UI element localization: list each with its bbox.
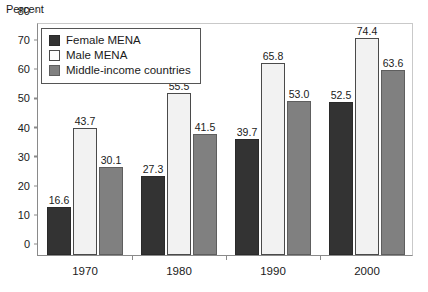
bar: 52.5 [329, 102, 353, 255]
y-axis-tick: 10 [6, 209, 38, 220]
y-axis-tick-label: 60 [6, 64, 34, 75]
bar: 41.5 [193, 134, 217, 255]
x-axis-tick-mark [226, 255, 227, 260]
bar: 74.4 [355, 38, 379, 255]
y-axis-tick: 50 [6, 93, 38, 104]
bar-value-label: 53.0 [289, 88, 309, 100]
bar-value-label: 30.1 [101, 154, 121, 166]
y-axis-tick-label: 80 [6, 6, 34, 17]
bar-chart: Percent 01020304050607080 19701980199020… [0, 0, 428, 292]
bar: 53.0 [287, 101, 311, 255]
x-axis-tick-label: 1970 [72, 264, 98, 278]
x-axis-tick-label: 1980 [166, 264, 192, 278]
y-axis-tick-mark [34, 69, 38, 70]
legend-item: Female MENA [49, 33, 191, 48]
y-axis-tick-label: 0 [6, 239, 34, 250]
legend-item: Middle-income countries [49, 63, 191, 78]
y-axis-tick: 60 [6, 64, 38, 75]
bar-value-label: 41.5 [195, 121, 215, 133]
bar-value-label: 52.5 [331, 89, 351, 101]
x-axis-tick-mark [132, 255, 133, 260]
y-axis-tick-mark [34, 156, 38, 157]
bar: 63.6 [381, 70, 405, 255]
y-axis-tick: 80 [6, 6, 38, 17]
bar-value-label: 65.8 [263, 50, 283, 62]
bar: 30.1 [99, 167, 123, 255]
bar-value-label: 63.6 [383, 57, 403, 69]
bar: 27.3 [141, 176, 165, 256]
bar-value-label: 43.7 [75, 115, 95, 127]
bar-value-label: 39.7 [237, 126, 257, 138]
legend-item-label: Male MENA [66, 49, 127, 62]
y-axis-tick-mark [34, 39, 38, 40]
y-axis-tick-mark [34, 98, 38, 99]
y-axis-tick: 30 [6, 151, 38, 162]
y-axis-tick-label: 10 [6, 209, 34, 220]
bar: 39.7 [235, 139, 259, 255]
y-axis-tick-mark [34, 127, 38, 128]
legend-item-label: Middle-income countries [66, 64, 191, 77]
y-axis-tick-label: 70 [6, 35, 34, 46]
y-axis-tick-label: 20 [6, 180, 34, 191]
bar-value-label: 16.6 [49, 194, 69, 206]
legend-item: Male MENA [49, 48, 191, 63]
x-axis-tick-label: 2000 [354, 264, 380, 278]
bar: 65.8 [261, 63, 285, 255]
y-axis-tick: 0 [6, 239, 38, 250]
bar: 16.6 [47, 207, 71, 255]
x-axis-tick-mark [320, 255, 321, 260]
bar: 55.5 [167, 93, 191, 255]
y-axis-tick-label: 40 [6, 122, 34, 133]
y-axis-tick-mark [34, 185, 38, 186]
legend-swatch-icon [49, 50, 60, 61]
x-axis-tick-label: 1990 [260, 264, 286, 278]
legend-swatch-icon [49, 65, 60, 76]
legend-item-label: Female MENA [66, 34, 141, 47]
bar: 43.7 [73, 128, 97, 255]
chart-legend: Female MENAMale MENAMiddle-income countr… [41, 28, 201, 84]
y-axis-tick-mark [34, 243, 38, 244]
y-axis-tick: 70 [6, 35, 38, 46]
legend-swatch-icon [49, 35, 60, 46]
y-axis-tick-mark [34, 10, 38, 11]
y-axis-tick: 40 [6, 122, 38, 133]
bar-value-label: 27.3 [143, 163, 163, 175]
bar-value-label: 74.4 [357, 25, 377, 37]
y-axis-tick: 20 [6, 180, 38, 191]
y-axis-tick-mark [34, 214, 38, 215]
y-axis-tick-label: 30 [6, 151, 34, 162]
y-axis-tick-label: 50 [6, 93, 34, 104]
